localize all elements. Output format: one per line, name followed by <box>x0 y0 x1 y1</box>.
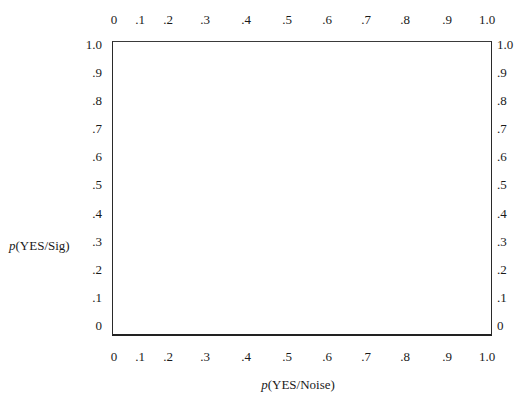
y-axis-label-text: (YES/Sig) <box>16 238 70 253</box>
x-tick-top: .6 <box>322 13 332 27</box>
x-tick-bottom: .6 <box>322 350 332 364</box>
y-tick-right: .7 <box>497 122 527 136</box>
y-tick-left: .2 <box>72 263 102 277</box>
x-tick-bottom: 1.0 <box>479 350 495 364</box>
x-tick-bottom: .1 <box>135 350 145 364</box>
x-tick-top: .8 <box>400 13 410 27</box>
y-tick-left: .1 <box>72 291 102 305</box>
x-tick-bottom: .4 <box>241 350 251 364</box>
x-axis-label-text: (YES/Noise) <box>268 377 335 392</box>
x-tick-top: .9 <box>442 13 452 27</box>
y-tick-left: 0 <box>72 319 102 333</box>
y-tick-right: .5 <box>497 178 527 192</box>
y-tick-left: .5 <box>72 178 102 192</box>
x-tick-top: 0 <box>111 13 118 27</box>
y-tick-right: 1.0 <box>497 38 527 52</box>
y-tick-right: .8 <box>497 94 527 108</box>
x-tick-bottom: .5 <box>282 350 292 364</box>
y-tick-left: .9 <box>72 66 102 80</box>
x-tick-bottom: 0 <box>111 350 118 364</box>
x-tick-bottom: .3 <box>200 350 210 364</box>
y-tick-right: .1 <box>497 291 527 305</box>
x-tick-top: .1 <box>135 13 145 27</box>
x-tick-top: .7 <box>361 13 371 27</box>
y-tick-left: .7 <box>72 122 102 136</box>
x-tick-top: 1.0 <box>479 13 495 27</box>
y-tick-right: .2 <box>497 263 527 277</box>
x-tick-top: .4 <box>241 13 251 27</box>
x-tick-bottom: .7 <box>361 350 371 364</box>
x-tick-bottom: .2 <box>163 350 173 364</box>
y-tick-right: .6 <box>497 150 527 164</box>
y-tick-right: .4 <box>497 207 527 221</box>
x-tick-top: .2 <box>163 13 173 27</box>
y-tick-left: .6 <box>72 150 102 164</box>
y-tick-left: .8 <box>72 94 102 108</box>
y-tick-right: .3 <box>497 235 527 249</box>
y-tick-left: .3 <box>72 235 102 249</box>
plot-area <box>112 41 492 336</box>
y-tick-right: 0 <box>497 319 527 333</box>
y-tick-left: .4 <box>72 207 102 221</box>
x-tick-bottom: .8 <box>400 350 410 364</box>
x-tick-top: .5 <box>282 13 292 27</box>
y-tick-left: 1.0 <box>72 38 102 52</box>
x-tick-bottom: .9 <box>442 350 452 364</box>
x-tick-top: .3 <box>200 13 210 27</box>
y-tick-right: .9 <box>497 66 527 80</box>
y-axis-label: p(YES/Sig) <box>9 238 70 253</box>
x-axis-label: p(YES/Noise) <box>261 377 335 392</box>
